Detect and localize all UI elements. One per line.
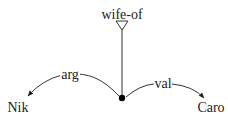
triangle-down-icon — [116, 21, 128, 30]
filled-dot-icon — [119, 95, 125, 101]
arg-edge-segment-b — [28, 75, 62, 96]
root-label: wife-of — [101, 7, 143, 22]
node-nik: Nik — [8, 100, 29, 115]
val-edge-segment-a — [126, 84, 154, 97]
semantic-graph-diagram: wife-of arg val Nik Caro — [0, 0, 228, 119]
node-caro: Caro — [197, 100, 224, 115]
val-edge-label: val — [154, 76, 171, 91]
arg-edge-label: arg — [61, 67, 79, 82]
val-edge-segment-b — [172, 84, 204, 98]
